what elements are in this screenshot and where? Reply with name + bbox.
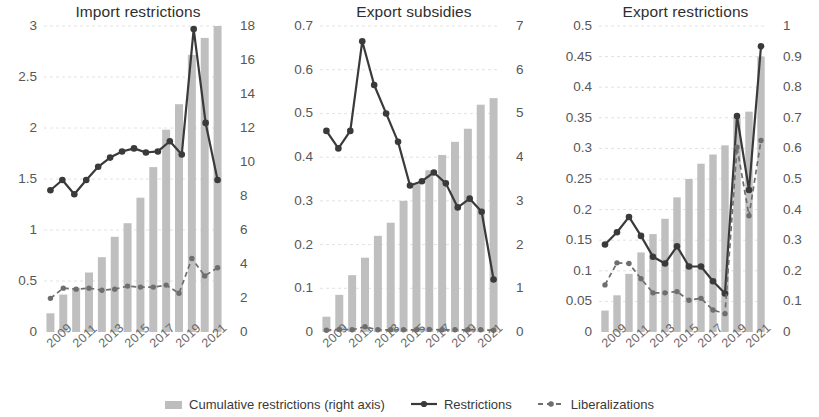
x-axis-1: 2009201120132015201720192021 xyxy=(320,334,500,390)
bar-cumulative-restrictions xyxy=(374,236,382,332)
data-point-restrictions xyxy=(47,187,54,194)
y-tick-right-1-2: 2 xyxy=(508,238,552,252)
bar-cumulative-restrictions xyxy=(136,198,144,332)
y-tick-right-2-8: 0.8 xyxy=(775,80,819,94)
chart-panels: Import restrictions 00.511.522.53 024681… xyxy=(0,0,819,390)
data-point-restrictions xyxy=(722,290,729,297)
bar-cumulative-restrictions xyxy=(685,179,692,332)
data-point-restrictions xyxy=(443,180,450,187)
bar-cumulative-restrictions xyxy=(757,57,764,332)
data-point-liberalizations xyxy=(125,283,130,288)
y-tick-left-0-6: 3 xyxy=(0,19,44,33)
data-point-restrictions xyxy=(202,120,209,127)
data-point-restrictions xyxy=(214,177,221,184)
data-point-liberalizations xyxy=(73,286,78,291)
data-point-restrictions xyxy=(155,148,162,155)
data-point-liberalizations xyxy=(61,285,66,290)
chart-panel-export-subsidies: Export subsidies 00.10.20.30.40.50.60.7 … xyxy=(276,0,552,390)
y-tick-left-0-3: 1.5 xyxy=(0,172,44,186)
x-axis-0: 2009201120132015201720192021 xyxy=(44,334,224,390)
bar-cumulative-restrictions xyxy=(661,219,668,332)
data-point-liberalizations xyxy=(674,289,679,294)
bar-cumulative-restrictions xyxy=(601,311,608,332)
data-point-restrictions xyxy=(662,260,669,267)
y-tick-left-0-1: 0.5 xyxy=(0,274,44,288)
y-tick-right-1-1: 1 xyxy=(508,281,552,295)
bar-cumulative-restrictions xyxy=(637,252,644,332)
y-tick-right-1-0: 0 xyxy=(508,325,552,339)
data-point-restrictions xyxy=(478,208,485,215)
data-point-restrictions xyxy=(178,151,185,158)
data-point-restrictions xyxy=(119,148,126,155)
chart-panel-export-restrictions: Export restrictions 00.050.10.150.20.250… xyxy=(552,0,819,390)
y-tick-right-0-4: 8 xyxy=(232,189,276,203)
chart-legend: Cumulative restrictions (right axis) Res… xyxy=(0,392,819,417)
bar-cumulative-restrictions xyxy=(451,142,459,332)
data-point-liberalizations xyxy=(112,286,117,291)
y-tick-right-0-8: 16 xyxy=(232,53,276,67)
y-tick-right-0-7: 14 xyxy=(232,87,276,101)
bar-cumulative-restrictions xyxy=(709,155,716,332)
bar-cumulative-restrictions xyxy=(673,197,680,332)
y-tick-left-0-4: 2 xyxy=(0,121,44,135)
bar-cumulative-restrictions xyxy=(649,234,656,332)
data-point-restrictions xyxy=(758,43,765,50)
plot-svg-0 xyxy=(44,26,224,332)
legend-label-liberalizations: Liberalizations xyxy=(571,397,654,412)
data-point-liberalizations xyxy=(138,284,143,289)
data-point-restrictions xyxy=(746,187,753,194)
y-tick-left-1-6: 0.6 xyxy=(276,63,320,77)
data-point-liberalizations xyxy=(176,291,181,296)
data-point-restrictions xyxy=(131,145,138,152)
bar-cumulative-restrictions xyxy=(111,237,119,332)
bar-cumulative-restrictions xyxy=(464,129,472,332)
data-point-restrictions xyxy=(107,154,114,161)
legend-label-cumulative-restrictions: Cumulative restrictions (right axis) xyxy=(189,397,385,412)
y-tick-right-1-6: 6 xyxy=(508,63,552,77)
legend-item-restrictions: Restrictions xyxy=(411,397,512,412)
plot-wrap-0: 00.511.522.53 024681012141618 2009201120… xyxy=(0,26,276,348)
legend-label-restrictions: Restrictions xyxy=(444,397,512,412)
y-tick-left-0-2: 1 xyxy=(0,223,44,237)
plot-wrap-2: 00.050.10.150.20.250.30.350.40.450.5 00.… xyxy=(552,26,819,348)
data-point-liberalizations xyxy=(202,273,207,278)
bar-cumulative-restrictions xyxy=(425,170,433,332)
data-point-restrictions xyxy=(419,178,426,185)
data-point-liberalizations xyxy=(48,296,53,301)
data-point-liberalizations xyxy=(686,297,691,302)
y-tick-left-1-5: 0.5 xyxy=(276,106,320,120)
y-tick-left-0-5: 2.5 xyxy=(0,70,44,84)
plot-area-2 xyxy=(599,26,767,332)
data-point-restrictions xyxy=(490,276,497,283)
data-point-restrictions xyxy=(371,82,378,89)
data-point-restrictions xyxy=(190,26,197,33)
y-tick-right-2-2: 0.2 xyxy=(775,264,819,278)
data-point-liberalizations xyxy=(734,144,739,149)
bar-cumulative-restrictions xyxy=(400,201,408,332)
plot-wrap-1: 00.10.20.30.40.50.60.7 01234567 20092011… xyxy=(276,26,552,348)
data-point-liberalizations xyxy=(614,260,619,265)
y-tick-right-2-10: 1 xyxy=(775,19,819,33)
trade-policy-measures-figure: Import restrictions 00.511.522.53 024681… xyxy=(0,0,819,417)
bar-cumulative-restrictions xyxy=(361,258,369,332)
data-point-liberalizations xyxy=(215,265,220,270)
data-point-liberalizations xyxy=(189,256,194,261)
y-tick-right-2-4: 0.4 xyxy=(775,203,819,217)
y-tick-right-0-3: 6 xyxy=(232,223,276,237)
bar-cumulative-restrictions xyxy=(490,98,498,332)
plot-svg-1 xyxy=(320,26,500,332)
data-point-restrictions xyxy=(466,195,473,202)
data-point-restrictions xyxy=(59,177,66,184)
data-point-restrictions xyxy=(335,145,342,152)
bar-cumulative-restrictions xyxy=(149,167,157,332)
data-point-liberalizations xyxy=(602,282,607,287)
solid-line-dot-icon xyxy=(411,397,437,412)
data-point-liberalizations xyxy=(638,276,643,281)
y-tick-left-2-4: 0.2 xyxy=(552,203,599,217)
y-axis-left-1: 00.10.20.30.40.50.60.7 xyxy=(276,26,320,332)
data-point-restrictions xyxy=(614,229,621,236)
y-tick-right-0-1: 2 xyxy=(232,291,276,305)
data-point-restrictions xyxy=(323,128,330,135)
y-tick-left-2-3: 0.15 xyxy=(552,233,599,247)
chart-panel-import-restrictions: Import restrictions 00.511.522.53 024681… xyxy=(0,0,276,390)
